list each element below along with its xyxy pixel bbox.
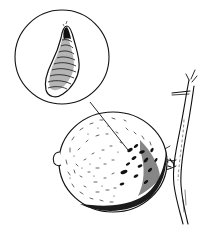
drawing-canvas: [0, 0, 207, 238]
inset-magnifier: [15, 10, 109, 104]
illustration: Citrus fruit on a branch with magnified …: [0, 0, 207, 238]
branch: [162, 70, 197, 224]
